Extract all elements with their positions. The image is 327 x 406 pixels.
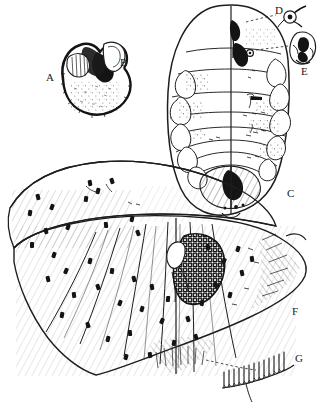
label-f: F xyxy=(292,306,298,317)
label-c: C xyxy=(287,188,295,199)
illustration-plate: A B C D E F G xyxy=(0,0,327,406)
label-a: A xyxy=(46,72,54,83)
label-e: E xyxy=(301,66,308,77)
figure-drawing xyxy=(0,0,327,406)
label-g: G xyxy=(295,353,303,364)
enlarged-pygidium-f xyxy=(8,161,306,376)
label-b: B xyxy=(120,57,128,68)
label-d: D xyxy=(275,5,283,16)
inset-ab-lateral-body xyxy=(61,42,131,118)
dorsal-habitus-c xyxy=(168,5,291,218)
